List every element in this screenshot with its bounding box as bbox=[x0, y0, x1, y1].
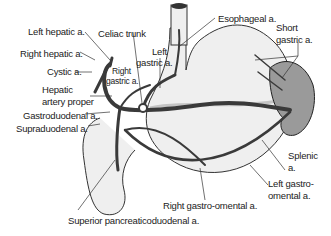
esophagus-opening bbox=[171, 3, 187, 9]
label-right-gastric-line2: gastric a. bbox=[106, 77, 139, 87]
label-celiac-trunk: Celiac trunk bbox=[98, 28, 146, 39]
label-short-gastric-line1: Short bbox=[276, 22, 298, 33]
label-left-gastroomental-line1: Left gastro- bbox=[268, 178, 314, 189]
label-gastroduodenal: Gastroduodenal a. bbox=[23, 110, 98, 121]
label-supraduodenal: Supraduodenal a. bbox=[16, 123, 88, 134]
label-hepatic-proper-line1: Hepatic bbox=[42, 84, 73, 95]
label-esophageal: Esophageal a. bbox=[218, 13, 276, 24]
label-left-gastric-line1: Left bbox=[152, 46, 167, 57]
celiac-trunk-node bbox=[139, 104, 147, 112]
label-right-gastroomental: Right gastro-omental a. bbox=[163, 200, 257, 211]
label-left-gastroomental-line2: omental a. bbox=[268, 190, 310, 201]
label-cystic: Cystic a. bbox=[47, 66, 82, 77]
label-superior-pancreaticoduodenal: Superior pancreaticoduodenal a. bbox=[68, 215, 199, 226]
stomach bbox=[146, 25, 293, 172]
label-left-hepatic: Left hepatic a. bbox=[28, 26, 85, 37]
label-splenic-line1: Splenic bbox=[288, 150, 318, 161]
label-left-gastric-line2: gastric a. bbox=[136, 57, 173, 68]
label-right-hepatic: Right hepatic a. bbox=[20, 48, 83, 59]
label-splenic-line2: a. bbox=[288, 162, 296, 173]
label-hepatic-proper-line2: artery proper bbox=[42, 96, 94, 107]
label-short-gastric-line2: gastric a. bbox=[276, 34, 313, 45]
